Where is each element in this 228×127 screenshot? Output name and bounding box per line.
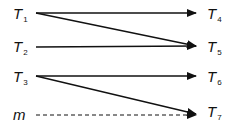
- node-t2: T2: [13, 39, 28, 57]
- node-t3: T3: [13, 69, 28, 87]
- edges-layer: [0, 0, 228, 127]
- node-t1: T1: [13, 6, 28, 24]
- edge-t2-t5: [36, 46, 196, 47]
- node-t6: T6: [207, 69, 222, 87]
- edge-t3-t7: [36, 76, 196, 114]
- edge-t1-t5: [36, 13, 196, 46]
- node-t7: T7: [207, 104, 222, 122]
- node-m: m: [13, 107, 26, 122]
- node-t4: T4: [207, 6, 222, 24]
- node-t5: T5: [207, 39, 222, 57]
